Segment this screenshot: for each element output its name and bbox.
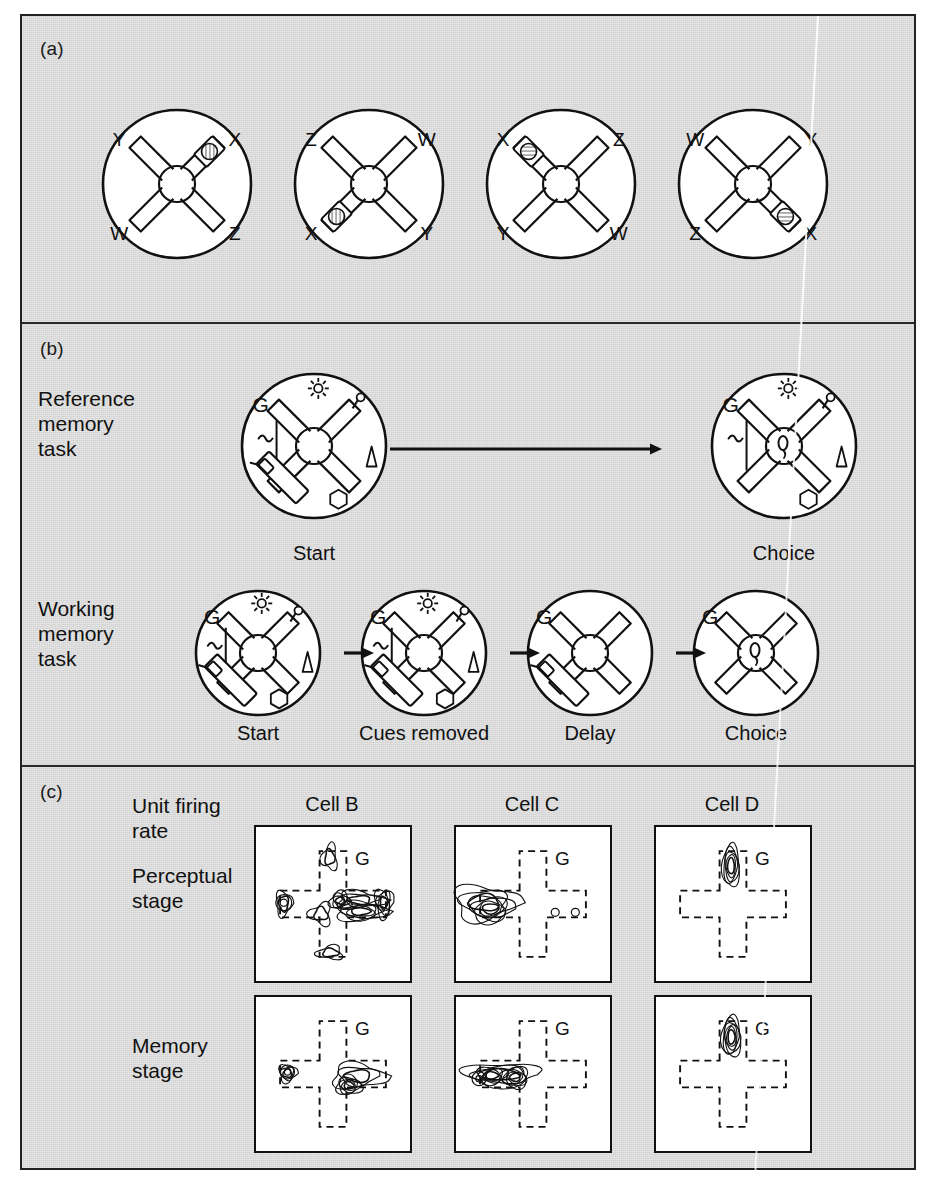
label-line: Reference <box>38 386 188 411</box>
maze-1: YXWZ <box>87 94 267 274</box>
maze-arm-label-bottom-left: Y <box>497 223 510 244</box>
plot-goal-label-G: G <box>355 848 370 869</box>
panel-b-tag: (b) <box>40 338 64 360</box>
contour-plot-b-perceptual: G <box>254 825 412 983</box>
arrow-working-step-1 <box>344 645 374 661</box>
arrow-reference-start-to-choice <box>390 441 662 457</box>
maze-working-cues-removed-caption: Cues removed <box>340 722 508 745</box>
contour-plot-c-memory: G <box>454 995 612 1153</box>
label-line: Working <box>38 596 188 621</box>
maze-arm-label-top-right: Y <box>804 129 817 150</box>
label-line: task <box>38 646 188 671</box>
maze-reference-choice: G <box>690 352 878 540</box>
maze-arm-label-top-left: Y <box>113 129 126 150</box>
plot-goal-label-G: G <box>755 1018 770 1039</box>
maze-arm-label-bottom-left: X <box>305 223 318 244</box>
goal-label-G: G <box>702 605 718 628</box>
panel-a: (a) YXWZZWXYXZYWWYZX <box>22 16 914 322</box>
contour-plot-d-perceptual: G <box>654 825 812 983</box>
contour-plot-d-memory: G <box>654 995 812 1153</box>
maze-arm-label-bottom-left: W <box>110 223 128 244</box>
column-header-cell-d: Cell D <box>653 793 811 816</box>
plot-goal-label-G: G <box>755 848 770 869</box>
hexagon-icon <box>330 490 346 509</box>
label-reference-memory-task: Reference memory task <box>38 386 188 461</box>
label-line: memory <box>38 621 188 646</box>
label-working-memory-task: Working memory task <box>38 596 188 671</box>
figure-container: (a) YXWZZWXYXZYWWYZX (b) Reference memor… <box>20 14 916 1170</box>
goal-label-G: G <box>536 605 552 628</box>
maze-arm-label-top-right: X <box>228 129 241 150</box>
panel-c-tag: (c) <box>40 781 63 803</box>
hexagon-icon <box>271 689 287 708</box>
maze-arm-label-bottom-right: W <box>610 223 628 244</box>
panel-b: (b) Reference memory task GStartGChoice … <box>22 324 914 765</box>
maze-arm-label-top-right: W <box>418 129 436 150</box>
hexagon-icon <box>437 689 453 708</box>
maze-working-start-caption: Start <box>174 722 342 745</box>
panel-a-tag: (a) <box>40 38 64 60</box>
contour-plot-b-memory: G <box>254 995 412 1153</box>
column-header-cell-c: Cell C <box>453 793 611 816</box>
goal-label-G: G <box>723 393 739 416</box>
label-line: memory <box>38 411 188 436</box>
label-line: task <box>38 436 188 461</box>
arrow-working-step-2 <box>510 645 540 661</box>
maze-reference-start: G <box>220 352 408 540</box>
hexagon-icon <box>800 490 816 509</box>
arrow-working-step-3 <box>676 645 706 661</box>
panel-c: (c) Unit firing rate Perceptual stage Me… <box>22 767 914 1168</box>
maze-arm-label-top-left: X <box>497 129 510 150</box>
maze-reference-start-caption: Start <box>220 542 408 565</box>
maze-working-start: G <box>174 569 342 737</box>
plot-goal-label-G: G <box>555 848 570 869</box>
maze-2: ZWXY <box>279 94 459 274</box>
maze-reference-choice-caption: Choice <box>690 542 878 565</box>
maze-working-delay-caption: Delay <box>506 722 674 745</box>
goal-label-G: G <box>253 393 269 416</box>
goal-label-G: G <box>204 605 220 628</box>
maze-arm-label-top-right: Z <box>613 129 625 150</box>
maze-arm-label-bottom-right: Z <box>229 223 241 244</box>
goal-label-G: G <box>370 605 386 628</box>
maze-4: WYZX <box>663 94 843 274</box>
maze-arm-label-bottom-left: Z <box>689 223 701 244</box>
plot-goal-label-G: G <box>555 1018 570 1039</box>
contour-plot-c-perceptual: G <box>454 825 612 983</box>
maze-arm-label-top-left: W <box>686 129 704 150</box>
maze-arm-label-top-left: Z <box>305 129 317 150</box>
maze-arm-label-bottom-right: X <box>804 223 817 244</box>
maze-3: XZYW <box>471 94 651 274</box>
maze-working-choice-caption: Choice <box>672 722 840 745</box>
plot-goal-label-G: G <box>355 1018 370 1039</box>
column-header-cell-b: Cell B <box>253 793 411 816</box>
maze-arm-label-bottom-right: Y <box>420 223 433 244</box>
